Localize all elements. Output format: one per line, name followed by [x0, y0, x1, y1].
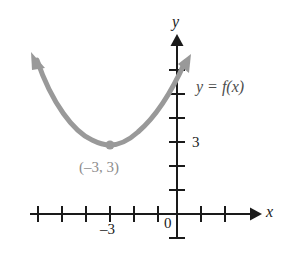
function-curve [37, 60, 185, 145]
graph-canvas [0, 0, 287, 263]
origin-label: 0 [164, 216, 172, 231]
x-axis-label: x [266, 204, 273, 220]
curve-left-arrowhead [31, 52, 45, 70]
y-axis-arrowhead [171, 34, 184, 46]
y-tick-label-3: 3 [192, 135, 200, 150]
x-tick-label-negative-3: –3 [100, 222, 115, 237]
function-graph-figure: y x 0 3 –3 y = f(x) (–3, 3) [0, 0, 287, 263]
curve-equation-label: y = f(x) [196, 79, 244, 95]
vertex-point-marker [106, 141, 115, 150]
x-axis-arrowhead [250, 208, 262, 221]
y-axis-label: y [172, 14, 179, 30]
vertex-coordinate-label: (–3, 3) [79, 160, 119, 175]
